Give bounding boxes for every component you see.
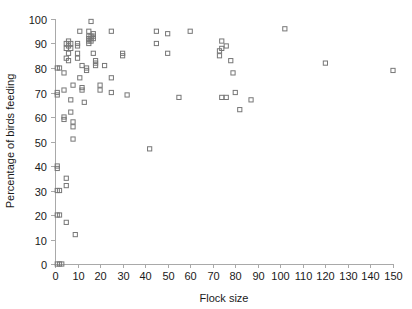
data-point bbox=[102, 63, 106, 67]
data-point bbox=[64, 176, 68, 180]
data-point bbox=[71, 120, 75, 124]
x-tick-label: 10 bbox=[72, 270, 84, 282]
data-point bbox=[62, 88, 66, 92]
data-point bbox=[109, 90, 113, 94]
data-point bbox=[166, 32, 170, 36]
data-point bbox=[87, 29, 91, 33]
data-point bbox=[109, 76, 113, 80]
scatter-plot-figure: 0102030405060708090100110120130140150010… bbox=[0, 0, 412, 309]
tick-label-layer: 0102030405060708090100110120130140150010… bbox=[29, 14, 403, 283]
x-tick-label: 40 bbox=[139, 270, 151, 282]
data-point bbox=[323, 61, 327, 65]
y-tick-label: 100 bbox=[29, 14, 47, 26]
data-point bbox=[75, 51, 79, 55]
x-axis-title: Flock size bbox=[200, 292, 249, 304]
data-point bbox=[148, 147, 152, 151]
data-point bbox=[231, 71, 235, 75]
plot-canvas: 0102030405060708090100110120130140150010… bbox=[0, 0, 412, 309]
x-tick-label: 140 bbox=[361, 270, 379, 282]
data-marker-layer bbox=[55, 19, 395, 266]
data-point bbox=[89, 19, 93, 23]
x-tick-label: 100 bbox=[271, 270, 289, 282]
data-point bbox=[82, 100, 86, 104]
y-tick-label: 60 bbox=[35, 112, 47, 124]
data-point bbox=[229, 59, 233, 63]
y-tick-label: 20 bbox=[35, 210, 47, 222]
y-axis-title: Percentage of birds feeding bbox=[4, 74, 16, 209]
y-tick-label: 90 bbox=[35, 38, 47, 50]
data-point bbox=[71, 125, 75, 129]
data-point bbox=[220, 39, 224, 43]
x-tick-label: 30 bbox=[117, 270, 129, 282]
data-point bbox=[73, 233, 77, 237]
data-point bbox=[154, 29, 158, 33]
x-tick-label: 80 bbox=[229, 270, 241, 282]
x-tick-label: 90 bbox=[252, 270, 264, 282]
data-point bbox=[220, 95, 224, 99]
x-tick-label: 0 bbox=[52, 270, 58, 282]
y-tick-label: 10 bbox=[35, 235, 47, 247]
data-point bbox=[66, 51, 70, 55]
data-point bbox=[75, 56, 79, 60]
data-point bbox=[64, 220, 68, 224]
data-point bbox=[64, 184, 68, 188]
y-tick-label: 40 bbox=[35, 161, 47, 173]
x-tick-label: 60 bbox=[184, 270, 196, 282]
data-point bbox=[125, 93, 129, 97]
data-point bbox=[91, 51, 95, 55]
data-point bbox=[78, 76, 82, 80]
data-point bbox=[238, 108, 242, 112]
y-tick-label: 50 bbox=[35, 137, 47, 149]
data-point bbox=[217, 54, 221, 58]
data-point bbox=[188, 29, 192, 33]
data-point bbox=[391, 68, 395, 72]
data-point bbox=[69, 110, 73, 114]
data-point bbox=[78, 29, 82, 33]
data-point bbox=[166, 51, 170, 55]
y-tick-label: 80 bbox=[35, 63, 47, 75]
data-point bbox=[80, 63, 84, 67]
data-point bbox=[249, 98, 253, 102]
x-tick-label: 120 bbox=[316, 270, 334, 282]
data-point bbox=[98, 83, 102, 87]
x-tick-label: 150 bbox=[384, 270, 402, 282]
data-point bbox=[62, 71, 66, 75]
data-point bbox=[71, 83, 75, 87]
data-point bbox=[71, 137, 75, 141]
y-tick-label: 70 bbox=[35, 88, 47, 100]
x-tick-label: 50 bbox=[162, 270, 174, 282]
y-tick-label: 30 bbox=[35, 186, 47, 198]
y-tick-label: 0 bbox=[41, 259, 47, 271]
x-tick-label: 20 bbox=[94, 270, 106, 282]
x-tick-label: 110 bbox=[295, 270, 313, 282]
data-point bbox=[154, 41, 158, 45]
data-point bbox=[177, 95, 181, 99]
data-point bbox=[224, 95, 228, 99]
axis-layer bbox=[51, 19, 394, 268]
x-tick-label: 70 bbox=[207, 270, 219, 282]
data-point bbox=[69, 98, 73, 102]
data-point bbox=[224, 44, 228, 48]
data-point bbox=[98, 88, 102, 92]
data-point bbox=[283, 27, 287, 31]
data-point bbox=[233, 90, 237, 94]
x-tick-label: 130 bbox=[339, 270, 357, 282]
data-point bbox=[109, 29, 113, 33]
